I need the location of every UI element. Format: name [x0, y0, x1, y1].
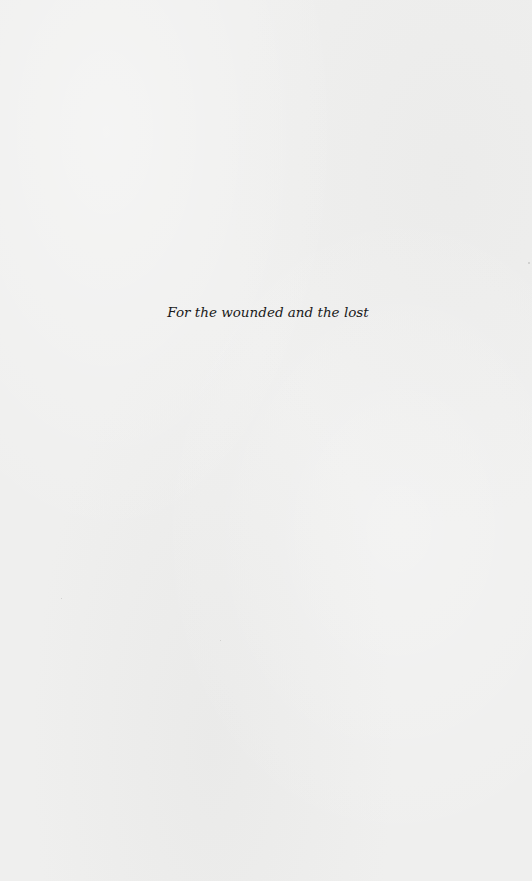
paper-speck [61, 598, 62, 599]
book-page: For the wounded and the lost [0, 0, 532, 881]
paper-speck [528, 262, 530, 264]
dedication-text: For the wounded and the lost [0, 303, 532, 321]
paper-speck [220, 640, 221, 641]
